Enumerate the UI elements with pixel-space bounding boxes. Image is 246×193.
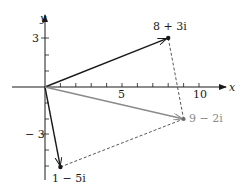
vector-8-plus-3i (45, 39, 166, 87)
y-axis (41, 15, 49, 180)
x-tick-label-10: 10 (193, 88, 207, 101)
x-axis-label: x (229, 81, 236, 94)
y-tick-label-neg3: − 3 (25, 128, 45, 141)
label-1-minus-5i: 1 − 5i (52, 172, 86, 185)
y-axis-label: y (39, 12, 47, 25)
x-axis-ticks (60, 83, 199, 87)
label-9-minus-2i: 9 − 2i (189, 112, 223, 125)
x-axis (12, 83, 226, 87)
point-9-minus-2i (182, 117, 186, 121)
vector-1-minus-5i (45, 87, 60, 165)
y-tick-label-3: 3 (32, 32, 39, 45)
point-1-minus-5i (58, 165, 62, 169)
x-tick-label-5: 5 (118, 88, 125, 101)
vector-9-minus-2i-sum (45, 87, 182, 119)
complex-plane-diagram: x y 5 10 3 − 3 8 + 3i 1 − 5i 9 − 2i (0, 0, 246, 193)
parallelogram-dashed-lines (60, 38, 183, 167)
label-8-plus-3i: 8 + 3i (153, 20, 187, 33)
point-8-plus-3i (166, 36, 170, 40)
